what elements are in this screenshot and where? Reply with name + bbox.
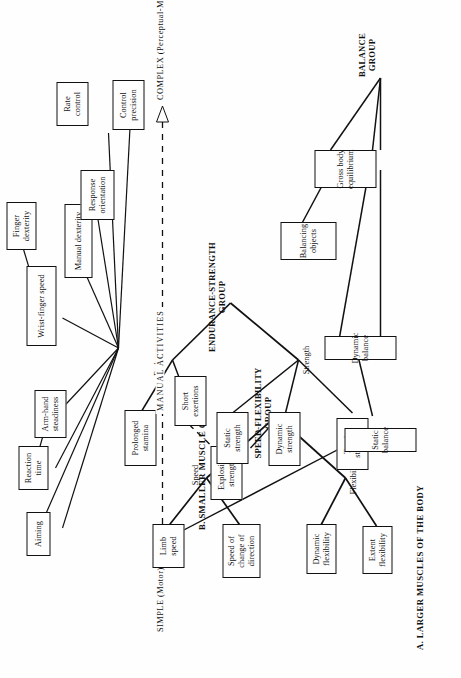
node-static-strength: Static strength <box>216 412 248 464</box>
node-extent-flexibility: Extent flexibility <box>362 526 392 574</box>
node-aiming: Aiming <box>26 512 50 556</box>
node-finger-dexterity: Finger dexterity <box>6 202 36 250</box>
node-balancing-objects: Balancing objects <box>280 222 336 260</box>
node-limb-speed: Limb speed <box>152 524 184 568</box>
branch-label-strength: Strength <box>301 336 311 384</box>
figure-canvas: A. LARGER MUSCLES OF THE BODY B. SMALLER… <box>0 0 461 678</box>
group-header-endurance-strength: ENDURANCE-STRENGTH GROUP <box>206 234 227 360</box>
node-response-orientation: Response orientation <box>80 170 114 220</box>
node-speed-of-change-of-direction: Speed of change of direction <box>222 524 260 578</box>
node-control-precision: Control precision <box>112 80 144 130</box>
node-dynamic-strength: Dynamic strength <box>268 412 300 466</box>
node-short-exertions: Short exertions <box>174 376 206 426</box>
axis-label-simple: SIMPLE (Motor) <box>155 567 164 632</box>
section-a-heading: A. LARGER MUSCLES OF THE BODY <box>414 485 424 650</box>
group-header-balance: BALANCE GROUP <box>356 18 377 92</box>
branch-label-speed: Speed <box>190 454 200 496</box>
node-dynamic-flexibility: Dynamic flexibility <box>306 524 336 574</box>
axis-label-complex: COMPLEX (Perceptual-Motor) <box>155 0 164 100</box>
figure-page: A. LARGER MUSCLES OF THE BODY B. SMALLER… <box>0 0 461 678</box>
node-wrist-finger-speed: Wrist-finger speed <box>26 266 56 346</box>
node-reaction-time: Reaction time <box>18 446 48 490</box>
node-prolonged-stamina: Prolonged stamina <box>124 410 156 466</box>
node-arm-hand-steadiness: Arm-hand steadiness <box>34 390 66 438</box>
node-gross-body-equilibrium: Gross body equilibrium <box>314 150 376 188</box>
axis-label-manual-activities: MANUAL ACTIVITIES <box>155 307 164 414</box>
node-static-balance: Static balance <box>344 428 416 452</box>
node-rate-control: Rate control <box>56 82 88 126</box>
node-dynamic-balance: Dynamic balance <box>324 336 396 360</box>
